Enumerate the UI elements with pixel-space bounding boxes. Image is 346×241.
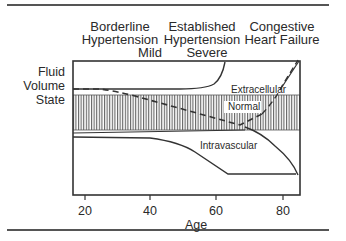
label-extracellular: Extracellular xyxy=(231,84,287,95)
x-tick-60: 60 xyxy=(209,204,223,218)
upper-boundary-curve xyxy=(73,62,225,89)
intravascular-curve xyxy=(73,137,296,174)
normal-band xyxy=(73,95,300,130)
x-tick-40: 40 xyxy=(143,204,157,218)
x-axis-label: Age xyxy=(185,218,207,232)
label-intravascular: Intravascular xyxy=(200,140,258,151)
intravascular-rise xyxy=(245,127,298,175)
x-tick-80: 80 xyxy=(276,204,290,218)
label-normal: Normal xyxy=(228,101,260,112)
below-band-line xyxy=(73,130,245,133)
chart-plot: Extracellular Normal Intravascular xyxy=(0,0,346,241)
x-tick-20: 20 xyxy=(78,204,92,218)
